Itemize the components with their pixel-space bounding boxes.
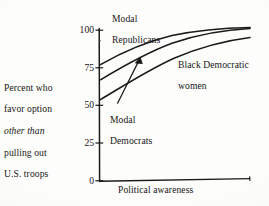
y-axis-title-line-5: U.S. troops (4, 169, 80, 180)
y-tick-label-100: 100 (68, 24, 94, 35)
annotation-arrow-head (135, 57, 142, 63)
series-label-black-democratic-women: Black Democratic women (178, 49, 249, 103)
scan-speck (99, 40, 101, 42)
series-label-modal-republicans-line-2: Republicans (112, 35, 160, 46)
y-axis-title: Percent who favor option other than pull… (4, 72, 80, 191)
x-axis-line (100, 179, 250, 182)
y-axis-title-line-2: favor option (4, 104, 80, 115)
annotation-arrow-shaft (118, 60, 140, 104)
y-axis-title-line-4: pulling out (4, 148, 80, 159)
y-axis-title-line-3: other than (4, 126, 80, 137)
y-tick-label-75: 75 (68, 62, 94, 73)
series-label-modal-democrats-line-1: Modal (110, 115, 152, 126)
series-label-modal-democrats: Modal Democrats (110, 104, 152, 158)
series-label-black-democratic-women-line-1: Black Democratic (178, 60, 249, 71)
x-axis-title: Political awareness (118, 185, 193, 196)
series-label-black-democratic-women-line-2: women (178, 81, 249, 92)
series-label-modal-democrats-line-2: Democrats (110, 136, 152, 147)
figure-container: 100 75 50 25 0 Percent who favor option … (0, 0, 269, 206)
series-label-modal-republicans-line-1: Modal (112, 14, 160, 25)
y-axis-title-line-1: Percent who (4, 83, 80, 94)
series-label-modal-republicans: Modal Republicans (112, 3, 160, 57)
